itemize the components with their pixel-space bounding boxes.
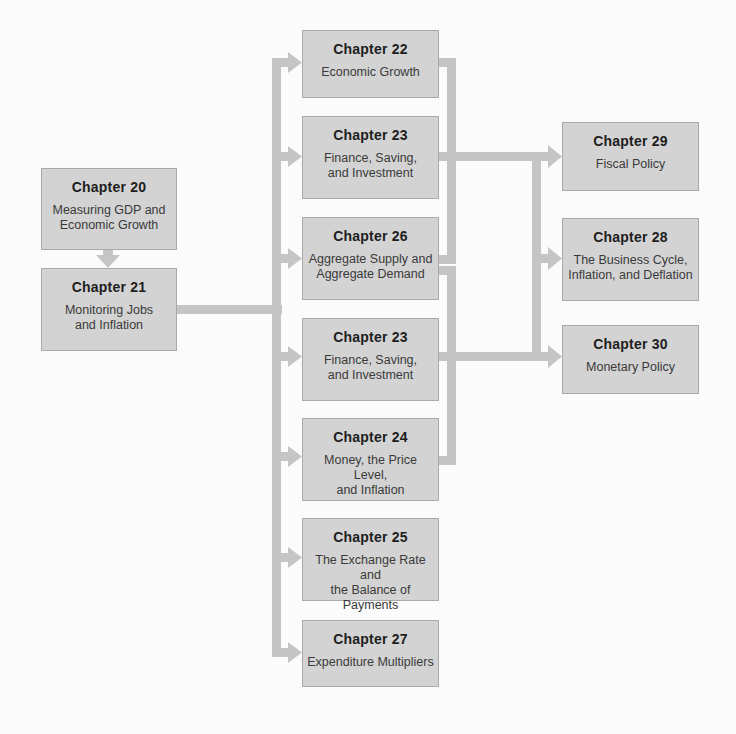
title-line: The Business Cycle,: [568, 253, 692, 268]
chapter-box-23-upper: Chapter 23 Finance, Saving, and Investme…: [302, 116, 439, 199]
title-line: Fiscal Policy: [596, 157, 665, 172]
chapter-title: Measuring GDP and Economic Growth: [48, 203, 169, 233]
chapter-box-27: Chapter 27 Expenditure Multipliers: [302, 620, 439, 687]
chapter-number: Chapter 20: [72, 179, 146, 195]
title-line: Monitoring Jobs: [65, 303, 153, 318]
chapter-title: Aggregate Supply and Aggregate Demand: [305, 252, 437, 282]
chapter-title: Expenditure Multipliers: [303, 655, 437, 670]
title-line: Expenditure Multipliers: [307, 655, 433, 670]
chapter-number: Chapter 23: [333, 329, 407, 345]
chapter-box-25: Chapter 25 The Exchange Rate and the Bal…: [302, 518, 439, 601]
chapter-title: The Exchange Rate and the Balance of Pay…: [303, 553, 438, 613]
chapter-flow-diagram: Chapter 20 Measuring GDP and Economic Gr…: [0, 0, 736, 734]
chapter-title: Monitoring Jobs and Inflation: [61, 303, 157, 333]
chapter-title: Money, the Price Level, and Inflation: [303, 453, 438, 498]
chapter-box-30: Chapter 30 Monetary Policy: [562, 325, 699, 394]
title-line: The Exchange Rate and: [307, 553, 434, 583]
chapter-title: The Business Cycle, Inflation, and Defla…: [564, 253, 696, 283]
title-line: Finance, Saving,: [324, 353, 417, 368]
title-line: Economic Growth: [321, 65, 420, 80]
chapter-box-20: Chapter 20 Measuring GDP and Economic Gr…: [41, 168, 177, 250]
chapter-box-26: Chapter 26 Aggregate Supply and Aggregat…: [302, 217, 439, 300]
chapter-number: Chapter 29: [593, 133, 667, 149]
title-line: Aggregate Supply and: [309, 252, 433, 267]
title-line: Monetary Policy: [586, 360, 675, 375]
chapter-box-28: Chapter 28 The Business Cycle, Inflation…: [562, 218, 699, 301]
title-line: and Investment: [324, 166, 417, 181]
chapter-box-22: Chapter 22 Economic Growth: [302, 30, 439, 98]
chapter-box-21: Chapter 21 Monitoring Jobs and Inflation: [41, 268, 177, 351]
title-line: and Inflation: [307, 483, 434, 498]
chapter-box-24: Chapter 24 Money, the Price Level, and I…: [302, 418, 439, 501]
chapter-number: Chapter 28: [593, 229, 667, 245]
title-line: the Balance of Payments: [307, 583, 434, 613]
title-line: and Investment: [324, 368, 417, 383]
title-line: Money, the Price Level,: [307, 453, 434, 483]
chapter-number: Chapter 24: [333, 429, 407, 445]
title-line: Measuring GDP and: [52, 203, 165, 218]
chapter-number: Chapter 23: [333, 127, 407, 143]
title-line: Inflation, and Deflation: [568, 268, 692, 283]
chapter-number: Chapter 27: [333, 631, 407, 647]
chapter-box-29: Chapter 29 Fiscal Policy: [562, 122, 699, 191]
chapter-number: Chapter 26: [333, 228, 407, 244]
chapter-number: Chapter 21: [72, 279, 146, 295]
title-line: Economic Growth: [52, 218, 165, 233]
chapter-box-23-lower: Chapter 23 Finance, Saving, and Investme…: [302, 318, 439, 401]
chapter-title: Finance, Saving, and Investment: [320, 151, 421, 181]
chapter-number: Chapter 25: [333, 529, 407, 545]
chapter-title: Fiscal Policy: [592, 157, 669, 172]
title-line: Finance, Saving,: [324, 151, 417, 166]
chapter-title: Economic Growth: [317, 65, 424, 80]
title-line: Aggregate Demand: [309, 267, 433, 282]
chapter-number: Chapter 22: [333, 41, 407, 57]
chapter-title: Monetary Policy: [582, 360, 679, 375]
chapter-number: Chapter 30: [593, 336, 667, 352]
title-line: and Inflation: [65, 318, 153, 333]
chapter-title: Finance, Saving, and Investment: [320, 353, 421, 383]
